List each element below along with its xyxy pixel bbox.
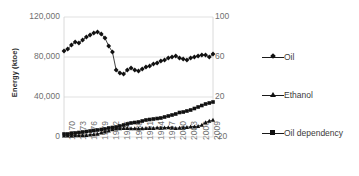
legend-item[interactable]: Oil dependency [262,114,359,152]
legend-label: Ethanol [284,90,313,100]
legend-label: Oil dependency [284,128,343,138]
diamond-marker-icon [262,52,284,62]
legend-item[interactable]: Oil [262,38,359,76]
legend-item[interactable]: Ethanol [262,76,359,114]
triangle-marker-icon [262,90,284,100]
legend-label: Oil [284,52,294,62]
chart-figure: Energy (ktoe) 040,00080,000120,000 -2020… [0,0,359,176]
chart-legend: OilEthanolOil dependency [262,38,359,152]
square-marker-icon [262,128,284,138]
